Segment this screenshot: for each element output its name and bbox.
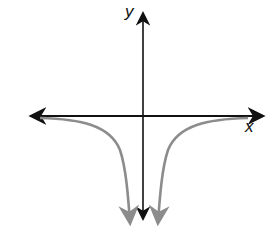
y-axis-label: y [125, 3, 134, 20]
function-graph: y x [0, 0, 277, 237]
right-branch-curve [158, 118, 248, 222]
graph-canvas [0, 0, 277, 237]
left-branch-curve [40, 118, 130, 222]
x-axis-label: x [245, 118, 254, 135]
